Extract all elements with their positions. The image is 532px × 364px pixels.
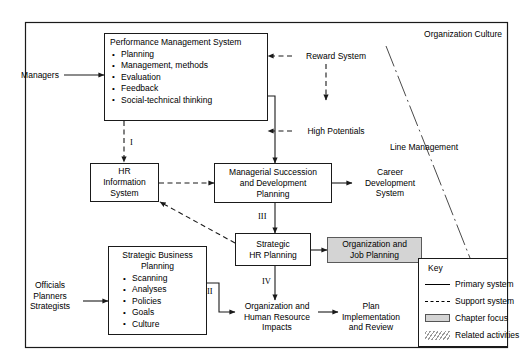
pms-to-succession-arrow — [268, 96, 275, 163]
list-item: Goals — [123, 307, 206, 318]
dashed-line-icon — [425, 297, 450, 306]
sbp-to-hris-support-link — [160, 202, 235, 243]
node-strategic-business-planning[interactable]: Strategic Business Planning Scanning Ana… — [108, 246, 207, 335]
hatched-box-icon — [425, 331, 450, 340]
list-item: Management, methods — [112, 60, 267, 71]
key-entry-label: Chapter focus — [455, 313, 508, 323]
key-title: Key — [428, 263, 443, 273]
node-performance-management-system[interactable]: Performance Management System Planning M… — [104, 33, 268, 121]
key-entry-label: Primary system — [455, 279, 514, 289]
reward-system-label: Reward System — [298, 51, 374, 62]
list-item: Policies — [123, 296, 206, 307]
node-plan-implementation-and-review: Plan Implementation and Review — [331, 301, 411, 333]
key-entry-primary-system: Primary system — [425, 278, 514, 290]
list-item: Culture — [123, 319, 206, 330]
list-item: Evaluation — [112, 72, 267, 83]
sbp-bullet-list: Scanning Analyses Policies Goals Culture — [109, 273, 206, 332]
key-entry-label: Support system — [455, 296, 514, 306]
key-entry-support-system: Support system — [425, 295, 514, 307]
list-item: Analyses — [123, 284, 206, 295]
high-potentials-label: High Potentials — [298, 126, 374, 137]
step-numeral-ii: II — [207, 286, 213, 296]
node-hr-information-system[interactable]: HR Information System — [90, 163, 159, 202]
list-item: Social-technical thinking — [112, 95, 267, 106]
managers-label: Managers — [14, 70, 66, 81]
step-numeral-iv: IV — [262, 276, 271, 286]
node-career-development-system: Career Development System — [352, 167, 428, 199]
pms-bullet-list: Planning Management, methods Evaluation … — [105, 49, 267, 108]
solid-line-icon — [425, 280, 450, 289]
key-entry-chapter-focus: Chapter focus — [425, 312, 508, 324]
line-management-label: Line Management — [383, 142, 465, 153]
list-item: Scanning — [123, 273, 206, 284]
diagram-canvas: Organization Culture Line Management Man… — [0, 0, 532, 364]
node-title: Strategic Business Planning — [109, 247, 206, 273]
node-managerial-succession[interactable]: Managerial Succession and Development Pl… — [214, 163, 332, 203]
node-strategic-hr-planning[interactable]: Strategic HR Planning — [235, 233, 311, 266]
officials-planners-strategists-label: Officials Planners Strategists — [16, 280, 84, 312]
step-numeral-iii: III — [258, 211, 267, 221]
key-entry-related-activities: Related activities — [425, 329, 519, 341]
shaded-box-icon — [425, 314, 450, 322]
list-item: Feedback — [112, 83, 267, 94]
step-numeral-i: I — [130, 137, 133, 147]
node-organization-hr-impacts: Organization and Human Resource Impacts — [235, 301, 319, 333]
key-legend-box: Key Primary system Support system Chapte… — [418, 258, 508, 347]
list-item: Planning — [112, 49, 267, 60]
key-entry-label: Related activities — [455, 330, 519, 340]
node-organization-and-job-planning[interactable]: Organization and Job Planning — [327, 237, 422, 263]
node-title: Performance Management System — [105, 34, 267, 49]
organization-culture-label: Organization Culture — [360, 29, 502, 40]
